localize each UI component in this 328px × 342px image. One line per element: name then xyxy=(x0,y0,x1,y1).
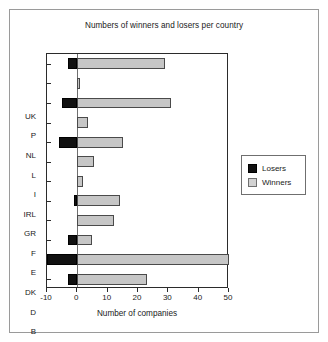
legend-swatch-winners xyxy=(248,178,257,187)
y-axis-tick-label: P xyxy=(31,131,36,140)
y-axis-tick-label: I xyxy=(34,190,36,199)
y-axis-tick-label: UK xyxy=(25,111,36,120)
x-axis-tick-label: -10 xyxy=(40,293,52,302)
y-axis-tick-label: B xyxy=(31,327,36,336)
bar-winners xyxy=(77,98,171,109)
x-axis-tick-label: 30 xyxy=(163,293,172,302)
legend-swatch-losers xyxy=(248,164,257,173)
x-axis-tick xyxy=(198,288,199,292)
x-axis-tick xyxy=(167,288,168,292)
x-axis-tick xyxy=(46,288,47,292)
legend-label: Winners xyxy=(262,178,291,187)
chart-legend: LosersWinners xyxy=(241,155,306,195)
bar-winners xyxy=(77,156,94,167)
bar-winners xyxy=(77,176,83,187)
x-axis-tick-label: 20 xyxy=(133,293,142,302)
bar-losers xyxy=(68,274,77,285)
bar-winners xyxy=(77,78,80,89)
y-axis-labels: UKPNLLIIRLGRFEDKDB xyxy=(0,53,42,288)
x-axis-tick xyxy=(76,288,77,292)
bar-losers xyxy=(62,98,77,109)
bar-winners xyxy=(77,235,92,246)
y-axis-tick-label: E xyxy=(31,268,36,277)
y-axis-tick-label: F xyxy=(31,248,36,257)
x-axis-tick-label: 0 xyxy=(74,293,78,302)
bar-winners xyxy=(77,195,119,206)
x-axis-tick xyxy=(137,288,138,292)
y-axis-tick-label: DK xyxy=(25,288,36,297)
y-axis-tick-label: NL xyxy=(26,150,36,159)
x-axis-tick xyxy=(228,288,229,292)
x-axis-tick-label: 50 xyxy=(224,293,233,302)
y-axis-tick-label: D xyxy=(30,307,36,316)
chart-title: Numbers of winners and losers per countr… xyxy=(0,21,328,30)
bars-layer xyxy=(47,54,227,287)
x-axis-title: Number of companies xyxy=(46,309,228,318)
x-axis-tick-label: 40 xyxy=(193,293,202,302)
y-axis-tick-label: IRL xyxy=(24,209,36,218)
bar-winners xyxy=(77,274,147,285)
bar-winners xyxy=(77,58,165,69)
bar-winners xyxy=(77,215,113,226)
y-axis-tick-label: L xyxy=(32,170,36,179)
y-axis-tick-label: GR xyxy=(24,229,36,238)
bar-losers xyxy=(68,58,77,69)
bar-losers xyxy=(68,235,77,246)
bar-winners xyxy=(77,137,123,148)
x-axis-tick-label: 10 xyxy=(102,293,111,302)
x-axis-tick xyxy=(107,288,108,292)
x-axis-tick-labels: -1001020304050 xyxy=(46,293,228,305)
legend-item: Losers xyxy=(248,161,300,175)
legend-label: Losers xyxy=(262,164,286,173)
plot-area xyxy=(46,53,228,288)
bar-winners xyxy=(77,254,229,265)
bar-winners xyxy=(77,117,88,128)
legend-item: Winners xyxy=(248,175,300,189)
bar-losers xyxy=(47,254,77,265)
bar-losers xyxy=(59,137,77,148)
chart-figure: Numbers of winners and losers per countr… xyxy=(0,0,328,342)
